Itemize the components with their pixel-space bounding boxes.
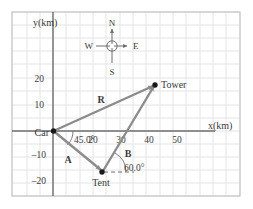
vector-label-b: B — [125, 148, 132, 159]
compass-label-north: N — [109, 18, 116, 28]
angle-label-60: 60.0° — [124, 163, 145, 173]
compass-label-east: E — [133, 41, 139, 51]
point-label-car: Car — [35, 127, 50, 138]
point-marker-tent — [99, 169, 104, 174]
x-tick-40: 40 — [144, 135, 154, 145]
point-label-tower: Tower — [161, 79, 187, 90]
compass-label-west: W — [85, 41, 94, 51]
y-tick-10: 10 — [35, 100, 45, 110]
point-marker-tower — [152, 82, 157, 87]
point-label-tent: Tent — [92, 177, 110, 188]
angle-label-45: 45.0° — [74, 135, 95, 145]
x-axis-label: x(km) — [208, 120, 232, 132]
vector-label-a: A — [64, 154, 72, 165]
vector-diagram-figure: N S E W y(km) x(km) 20 10 –10 –20 20 30 … — [0, 0, 253, 209]
x-tick-50: 50 — [172, 135, 182, 145]
vector-label-r: R — [97, 94, 105, 105]
y-tick-neg10: –10 — [31, 150, 47, 160]
y-axis-label: y(km) — [33, 17, 57, 29]
point-marker-car — [51, 128, 56, 133]
y-tick-20: 20 — [35, 74, 45, 84]
y-tick-neg20: –20 — [31, 176, 47, 186]
compass-label-south: S — [109, 67, 114, 77]
